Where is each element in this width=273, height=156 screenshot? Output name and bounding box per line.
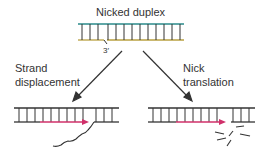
nick-translation-duplex (148, 108, 255, 146)
released-fragments (215, 126, 250, 146)
arrow-right (143, 51, 192, 101)
strand-displacement-duplex (14, 108, 119, 146)
diagram-graphics (0, 0, 273, 156)
nicked-duplex (78, 24, 184, 44)
arrow-left (73, 51, 122, 101)
